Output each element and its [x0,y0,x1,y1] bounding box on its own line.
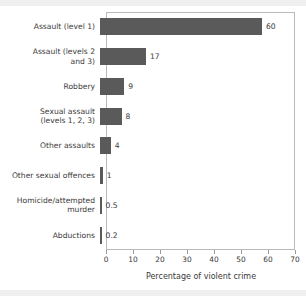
x-axis-tick [160,250,161,254]
x-axis-tick [133,250,134,254]
x-axis-tick-label: 70 [290,255,299,264]
x-axis-tick [106,250,107,254]
bar-value-label: 4 [115,141,120,150]
bar [100,108,122,125]
bar-track: 4 [100,131,306,161]
bar-value-label: 9 [128,82,133,91]
bar-category-label: Sexual assault (levels 1, 2, 3) [0,107,100,125]
bar-row: Sexual assault (levels 1, 2, 3)8 [0,101,306,131]
bar-row: Robbery9 [0,72,306,102]
bar-track: 0.5 [100,191,306,221]
bar [100,167,103,184]
bar [100,197,102,214]
x-axis-title: Percentage of violent crime [106,272,296,281]
bar-value-label: 8 [126,112,131,121]
bar-track: 0.2 [100,220,306,250]
bar-category-label: Assault (level 1) [0,22,100,31]
bar-value-label: 17 [150,52,160,61]
bar-value-label: 60 [266,22,276,31]
x-axis-tick-label: 20 [155,255,164,264]
x-axis-tick-label: 50 [236,255,245,264]
bar-track: 17 [100,42,306,72]
bar [100,78,124,95]
bar-row: Assault (levels 2 and 3)17 [0,42,306,72]
bar-category-label: Robbery [0,82,100,91]
x-axis-tick [295,250,296,254]
x-axis-tick-label: 60 [263,255,272,264]
bar-value-label: 0.5 [106,201,118,210]
bar-rows: Assault (level 1)60Assault (levels 2 and… [0,12,306,250]
bar-track: 1 [100,161,306,191]
bar [100,227,102,244]
bar [100,137,111,154]
bar-track: 8 [100,101,306,131]
bar-category-label: Homicide/attempted murder [0,196,100,214]
x-axis-tick [268,250,269,254]
bar-category-label: Other assaults [0,141,100,150]
bar-value-label: 0.2 [106,231,118,240]
bar [100,48,146,65]
bar-track: 9 [100,72,306,102]
bar-chart-figure: Assault (level 1)60Assault (levels 2 and… [0,0,306,296]
bar-row: Homicide/attempted murder0.5 [0,191,306,221]
x-axis-tick [241,250,242,254]
bar-track: 60 [100,12,306,42]
bar-row: Abductions0.2 [0,220,306,250]
x-axis-tick-label: 10 [128,255,137,264]
bar [100,18,262,35]
bar-category-label: Other sexual offences [0,171,100,180]
bar-row: Other assaults4 [0,131,306,161]
x-axis-tick [187,250,188,254]
bar-row: Other sexual offences1 [0,161,306,191]
chart-area: Assault (level 1)60Assault (levels 2 and… [0,0,306,296]
x-axis-tick-label: 30 [182,255,191,264]
bar-value-label: 1 [107,171,112,180]
bar-category-label: Assault (levels 2 and 3) [0,47,100,65]
x-axis-tick-label: 40 [209,255,218,264]
bar-row: Assault (level 1)60 [0,12,306,42]
x-axis-tick [214,250,215,254]
bar-category-label: Abductions [0,231,100,240]
x-axis-tick-label: 0 [104,255,109,264]
